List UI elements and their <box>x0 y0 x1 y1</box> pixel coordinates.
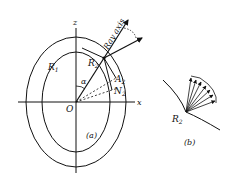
r2-label-b: R2 <box>171 114 183 125</box>
diagram-canvas: z x O α R1 R2 A2 N2 Ray axis (a) R2 (b) <box>0 0 230 180</box>
alpha-arc <box>76 86 85 89</box>
ray-arrow-3 <box>82 48 104 58</box>
ray-cone-arc <box>124 28 136 38</box>
r1-label: R1 <box>47 62 59 73</box>
point-r2 <box>102 56 105 59</box>
r2-label: R2 <box>87 58 99 69</box>
z-axis-label: z <box>72 18 78 27</box>
ray-axis-label: Ray axis <box>101 17 126 52</box>
ray-fan <box>186 78 215 112</box>
figure-a-caption: (a) <box>86 131 97 140</box>
figure-a: z x O α R1 R2 A2 N2 Ray axis (a) <box>18 17 142 173</box>
x-axis-label: x <box>137 98 142 107</box>
n2-label: N2 <box>113 86 126 97</box>
a2-label: A2 <box>114 74 126 85</box>
origin-label: O <box>66 104 74 114</box>
dashed-o-n2 <box>76 88 118 102</box>
figure-b: R2 (b) <box>163 76 220 147</box>
figure-b-caption: (b) <box>184 138 195 147</box>
alpha-label: α <box>81 77 87 86</box>
